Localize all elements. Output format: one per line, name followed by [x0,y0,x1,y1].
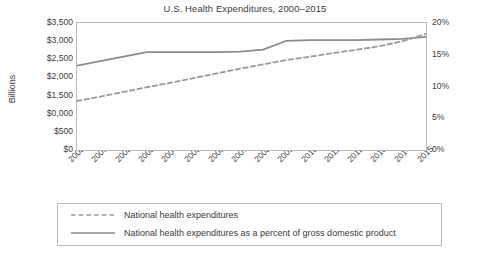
series-line-expenditures [77,34,426,101]
legend-item-gdp-percent: National health expenditures as a percen… [70,226,396,240]
plot-area [76,22,427,151]
plot-svg [77,23,426,150]
legend-item-expenditures: National health expenditures [70,208,238,222]
legend-swatch-dashed-icon [70,210,116,220]
legend-swatch-solid-icon [70,228,116,238]
legend-label-gdp-percent: National health expenditures as a percen… [124,228,396,238]
series-line-gdp-percent [77,37,426,66]
legend-label-expenditures: National health expenditures [124,210,238,220]
chart-legend: National health expenditures National he… [57,203,442,246]
chart-root: U.S. Health Expenditures, 2000–2015 Bill… [0,0,490,255]
